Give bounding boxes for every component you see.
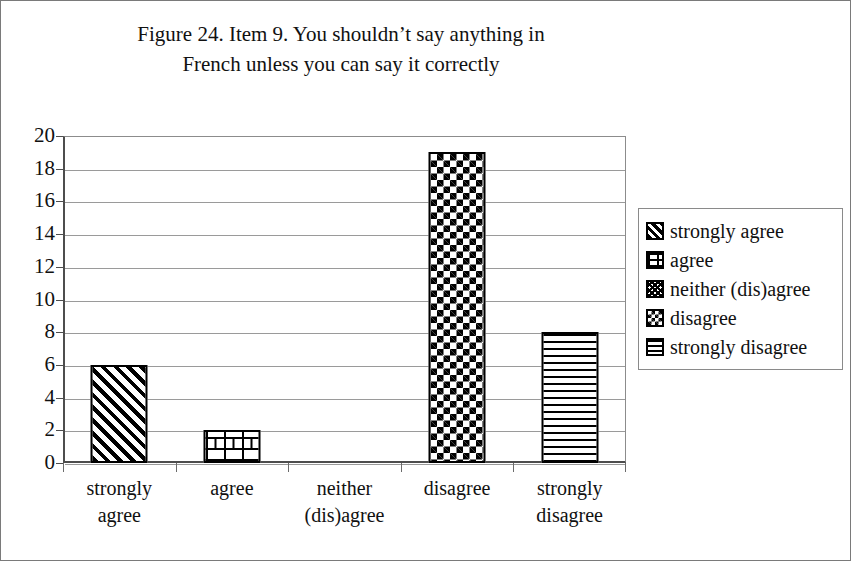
bar-slot <box>401 136 514 463</box>
y-axis-tick-label: 0 <box>11 452 55 473</box>
x-axis-tick-mark <box>513 463 514 472</box>
legend-item[interactable]: strongly agree <box>646 216 836 245</box>
x-axis-category-label: agree <box>176 475 289 502</box>
x-axis-tick-mark <box>401 463 402 472</box>
y-axis-tick-label: 6 <box>11 354 55 375</box>
y-axis-tick-label: 18 <box>11 158 55 179</box>
y-axis-tick-mark <box>56 430 63 431</box>
legend-label: disagree <box>670 307 737 329</box>
x-axis-category-label: disagree <box>401 475 514 502</box>
legend: strongly agreeagreeneither (dis)agreedis… <box>638 208 843 370</box>
legend-swatch-icon <box>646 309 664 327</box>
legend-label: strongly disagree <box>670 336 807 358</box>
legend-item[interactable]: neither (dis)agree <box>646 274 836 303</box>
legend-label: strongly agree <box>670 220 784 242</box>
y-axis-tick-mark <box>56 365 63 366</box>
bar-group <box>63 136 626 463</box>
legend-label: neither (dis)agree <box>670 278 810 300</box>
x-axis-category-label: neither (dis)agree <box>288 475 401 529</box>
legend-item[interactable]: strongly disagree <box>646 332 836 361</box>
y-axis-tick-mark <box>56 398 63 399</box>
y-axis-tick-mark <box>56 332 63 333</box>
legend-swatch-icon <box>646 338 664 356</box>
y-axis-tick-mark <box>56 463 63 464</box>
legend-label: agree <box>670 249 713 271</box>
bar[interactable] <box>203 430 260 463</box>
y-axis-tick-mark <box>56 234 63 235</box>
x-axis-label-group: strongly agreeagreeneither (dis)agreedis… <box>63 475 626 545</box>
bar-slot <box>288 136 401 463</box>
x-axis-tick-mark <box>625 463 626 472</box>
y-axis-tick-mark <box>56 136 63 137</box>
y-axis-tick-label: 4 <box>11 387 55 408</box>
bar-slot <box>513 136 626 463</box>
y-axis-tick-label: 8 <box>11 321 55 342</box>
legend-swatch-icon <box>646 280 664 298</box>
y-axis-tick-mark <box>56 267 63 268</box>
y-axis-tick-label: 2 <box>11 419 55 440</box>
y-axis-tick-mark <box>56 169 63 170</box>
y-axis-tick-label: 10 <box>11 289 55 310</box>
x-axis-tick-mark <box>288 463 289 472</box>
bar[interactable] <box>541 332 598 463</box>
x-axis-tick-group <box>63 463 626 473</box>
bar-slot <box>176 136 289 463</box>
x-axis-tick-mark <box>63 463 64 472</box>
legend-swatch-icon <box>646 222 664 240</box>
chart-title: Figure 24. Item 9. You shouldn’t say any… <box>61 19 621 79</box>
y-axis-tick-label: 16 <box>11 190 55 211</box>
y-axis-tick-label: 14 <box>11 223 55 244</box>
figure-container: Figure 24. Item 9. You shouldn’t say any… <box>0 0 851 561</box>
bar-slot <box>63 136 176 463</box>
y-axis-label-group: 20181614121086420 <box>9 136 55 463</box>
y-axis-tick-mark <box>56 300 63 301</box>
bar[interactable] <box>91 365 148 463</box>
y-axis-tick-mark <box>56 201 63 202</box>
legend-item[interactable]: disagree <box>646 303 836 332</box>
bar[interactable] <box>429 152 486 463</box>
y-axis-tick-label: 20 <box>11 125 55 146</box>
x-axis-category-label: strongly disagree <box>513 475 626 529</box>
legend-swatch-icon <box>646 251 664 269</box>
legend-item[interactable]: agree <box>646 245 836 274</box>
x-axis-category-label: strongly agree <box>63 475 176 529</box>
x-axis-tick-mark <box>176 463 177 472</box>
y-axis-tick-label: 12 <box>11 256 55 277</box>
